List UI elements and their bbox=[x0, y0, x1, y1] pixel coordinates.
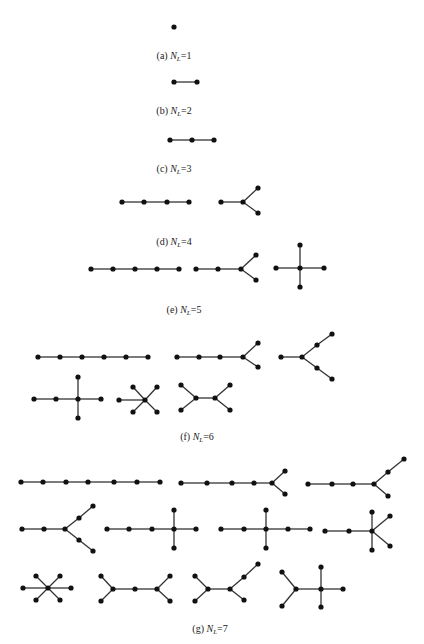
caption-g: (g) NL=7 bbox=[192, 623, 227, 638]
node-dot bbox=[79, 354, 84, 359]
node-dot bbox=[75, 396, 80, 401]
caption-var: N bbox=[170, 236, 177, 247]
node-dot bbox=[369, 547, 374, 552]
edge bbox=[372, 531, 390, 546]
caption-e: (e) NL=5 bbox=[167, 304, 202, 319]
node-dot bbox=[57, 573, 62, 578]
edge bbox=[145, 387, 157, 400]
caption-prefix: (f) bbox=[180, 431, 190, 442]
node-dot bbox=[322, 528, 327, 533]
node-dot bbox=[167, 598, 172, 603]
node-dot bbox=[75, 374, 80, 379]
node-dot bbox=[157, 479, 162, 484]
node-dot bbox=[186, 199, 191, 204]
node-dot bbox=[321, 265, 326, 270]
node-dot bbox=[119, 199, 124, 204]
caption-prefix: (a) bbox=[157, 50, 168, 61]
edge bbox=[243, 188, 258, 202]
graph-f-cross-6 bbox=[31, 374, 103, 420]
node-dot bbox=[297, 242, 302, 247]
node-dot bbox=[98, 396, 103, 401]
caption-value: =6 bbox=[203, 431, 214, 442]
graph-a-path-1 bbox=[171, 24, 176, 29]
node-dot bbox=[164, 199, 169, 204]
edge bbox=[101, 576, 113, 589]
node-dot bbox=[35, 354, 40, 359]
node-dot bbox=[263, 526, 268, 531]
node-dot bbox=[171, 24, 176, 29]
graph-e-fork-5 bbox=[193, 252, 258, 282]
node-dot bbox=[85, 479, 90, 484]
node-dot bbox=[346, 528, 351, 533]
node-dot bbox=[31, 396, 36, 401]
node-dot bbox=[178, 480, 183, 485]
node-dot bbox=[205, 586, 210, 591]
node-dot bbox=[57, 354, 62, 359]
node-dot bbox=[240, 199, 245, 204]
node-dot bbox=[63, 479, 68, 484]
node-dot bbox=[255, 364, 260, 369]
edge bbox=[215, 385, 230, 398]
node-dot bbox=[340, 586, 345, 591]
node-dot bbox=[123, 354, 128, 359]
node-dot bbox=[192, 598, 197, 603]
node-dot bbox=[278, 354, 283, 359]
node-dot bbox=[251, 480, 256, 485]
node-dot bbox=[98, 573, 103, 578]
node-dot bbox=[194, 79, 199, 84]
caption-prefix: (e) bbox=[167, 304, 178, 315]
node-dot bbox=[111, 479, 116, 484]
node-dot bbox=[282, 468, 287, 473]
node-dot bbox=[167, 137, 172, 142]
edge bbox=[65, 518, 79, 529]
node-dot bbox=[76, 515, 81, 520]
node-dot bbox=[241, 574, 246, 579]
graph-g-double-fork-7 bbox=[98, 573, 172, 603]
edge bbox=[302, 345, 317, 357]
node-dot bbox=[253, 277, 258, 282]
node-dot bbox=[19, 526, 24, 531]
caption-value: =2 bbox=[181, 105, 192, 116]
node-dot bbox=[101, 354, 106, 359]
node-dot bbox=[241, 526, 246, 531]
node-dot bbox=[154, 409, 159, 414]
node-dot bbox=[241, 597, 246, 602]
edge bbox=[79, 506, 93, 518]
node-dot bbox=[154, 266, 159, 271]
node-dot bbox=[255, 561, 260, 566]
node-dot bbox=[218, 526, 223, 531]
edge bbox=[215, 398, 230, 410]
edge bbox=[195, 589, 208, 601]
node-dot bbox=[314, 365, 319, 370]
edge bbox=[195, 576, 208, 589]
caption-value: =3 bbox=[181, 163, 192, 174]
node-dot bbox=[227, 407, 232, 412]
node-dot bbox=[174, 354, 179, 359]
edge bbox=[243, 343, 258, 357]
node-dot bbox=[387, 543, 392, 548]
node-dot bbox=[33, 573, 38, 578]
edge bbox=[79, 540, 93, 551]
node-dot bbox=[62, 526, 67, 531]
node-dot bbox=[193, 395, 198, 400]
node-dot bbox=[273, 265, 278, 270]
edge bbox=[374, 484, 388, 496]
caption-value: =4 bbox=[181, 236, 192, 247]
node-dot bbox=[90, 503, 95, 508]
edge bbox=[282, 572, 296, 589]
edge bbox=[272, 471, 285, 483]
node-dot bbox=[167, 573, 172, 578]
caption-value: =5 bbox=[191, 304, 202, 315]
caption-var: N bbox=[170, 105, 177, 116]
node-dot bbox=[193, 266, 198, 271]
node-dot bbox=[218, 199, 223, 204]
node-dot bbox=[145, 354, 150, 359]
node-dot bbox=[371, 481, 376, 486]
node-dot bbox=[196, 354, 201, 359]
caption-b: (b) NL=2 bbox=[156, 105, 191, 120]
edge bbox=[157, 589, 170, 601]
node-dot bbox=[255, 185, 260, 190]
edge bbox=[243, 202, 258, 213]
edge bbox=[372, 516, 390, 531]
node-dot bbox=[41, 526, 46, 531]
